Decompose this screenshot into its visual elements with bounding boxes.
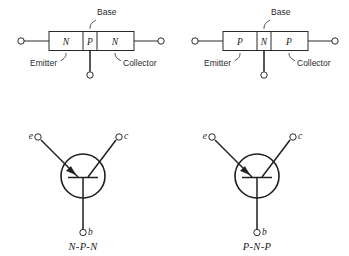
pnp-collector-callout-label: Collector xyxy=(297,58,331,68)
pnp-collector-terminal[interactable] xyxy=(332,38,338,44)
pnp-symbol-emitter-label: e xyxy=(203,131,207,141)
npn-symbol-base-label: b xyxy=(88,227,93,237)
npn-base-callout-label: Base xyxy=(97,7,117,17)
pnp-region-base-label: N xyxy=(260,37,268,47)
pnp-symbol-emitter-terminal[interactable] xyxy=(209,134,215,140)
npn-base-terminal[interactable] xyxy=(87,72,93,78)
pnp-emitter-terminal[interactable] xyxy=(192,38,198,44)
pnp-region-collector-label: P xyxy=(285,37,292,47)
npn-symbol-emitter-terminal[interactable] xyxy=(35,134,41,140)
transistor-figure: N P N Base Emitter Collector P N P Base xyxy=(0,0,349,256)
pnp-region-emitter-label: P xyxy=(236,37,243,47)
npn-symbol-collector-terminal[interactable] xyxy=(116,134,122,140)
npn-region-emitter-label: N xyxy=(62,37,70,47)
npn-symbol-base-terminal[interactable] xyxy=(80,229,86,235)
pnp-symbol-collector-terminal[interactable] xyxy=(290,134,296,140)
npn-region-base-label: P xyxy=(86,37,93,47)
npn-region-collector-label: N xyxy=(111,37,119,47)
npn-emitter-callout-label: Emitter xyxy=(30,58,57,68)
npn-emitter-terminal[interactable] xyxy=(18,38,24,44)
pnp-base-callout-label: Base xyxy=(271,7,291,17)
pnp-emitter-callout-label: Emitter xyxy=(204,58,231,68)
pnp-symbol-base-label: b xyxy=(262,227,267,237)
pnp-base-terminal[interactable] xyxy=(261,72,267,78)
pnp-symbol-base-terminal[interactable] xyxy=(254,229,260,235)
npn-symbol-emitter-label: e xyxy=(29,131,33,141)
pnp-symbol-caption: P-N-P xyxy=(242,241,272,252)
npn-collector-terminal[interactable] xyxy=(158,38,164,44)
npn-symbol-caption: N-P-N xyxy=(68,241,99,252)
npn-collector-callout-label: Collector xyxy=(123,58,157,68)
